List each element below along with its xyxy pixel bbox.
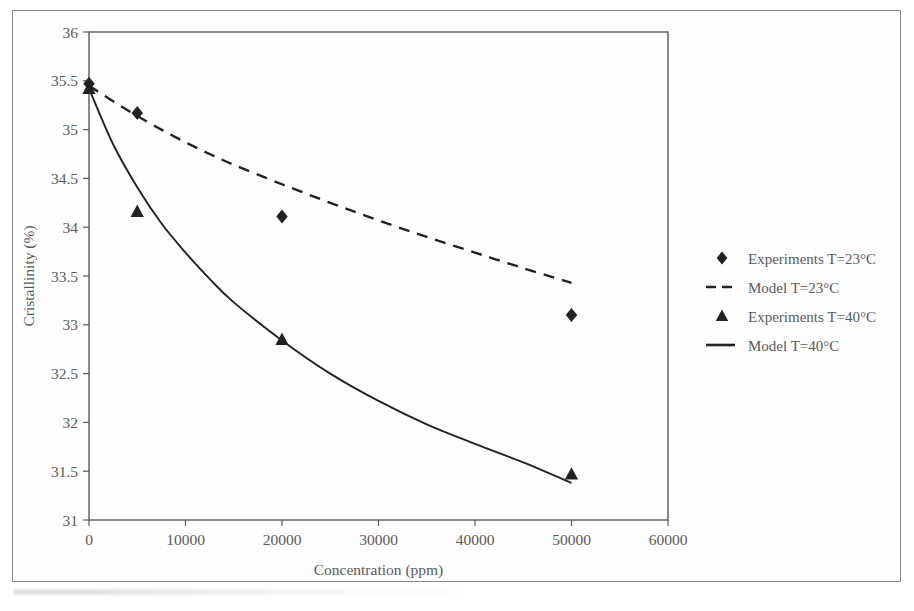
y-tick-label: 33: [63, 316, 79, 333]
y-axis-title: Cristallinity (%): [20, 225, 38, 326]
x-tick-label: 10000: [166, 531, 205, 548]
data-point-diamond: [566, 308, 577, 322]
x-tick-label: 60000: [649, 531, 688, 548]
data-point-triangle: [131, 205, 144, 217]
x-axis-title: Concentration (ppm): [314, 561, 444, 579]
plot-area: 3131.53232.53333.53434.53535.53601000020…: [20, 24, 876, 580]
x-tick-label: 0: [85, 531, 93, 548]
y-tick-label: 34.5: [51, 170, 78, 187]
legend-label: Experiments T=23°C: [748, 251, 876, 267]
figure: 3131.53232.53333.53434.53535.53601000020…: [0, 0, 914, 611]
data-point-diamond: [276, 209, 287, 223]
x-tick-label: 20000: [263, 531, 302, 548]
y-tick-label: 31.5: [51, 463, 78, 480]
x-tick-label: 40000: [456, 531, 495, 548]
y-tick-label: 32: [63, 414, 79, 431]
y-tick-label: 33.5: [51, 268, 78, 285]
y-tick-label: 32.5: [51, 365, 78, 382]
legend-marker-triangle: [716, 310, 728, 322]
x-tick-label: 50000: [552, 531, 591, 548]
series-line-1: [89, 86, 572, 283]
series-line-3: [89, 89, 572, 483]
plot-frame: [89, 32, 668, 520]
y-tick-label: 35: [63, 121, 79, 138]
legend-label: Model T=40°C: [748, 338, 839, 354]
y-tick-label: 35.5: [51, 72, 78, 89]
legend-label: Experiments T=40°C: [748, 309, 876, 325]
x-tick-label: 30000: [359, 531, 398, 548]
legend-label: Model T=23°C: [748, 280, 839, 296]
crystallinity-vs-concentration-chart: 3131.53232.53333.53434.53535.53601000020…: [0, 0, 914, 611]
y-tick-label: 34: [63, 219, 79, 236]
y-tick-label: 36: [63, 24, 79, 41]
legend-marker-diamond: [717, 252, 728, 265]
data-point-triangle: [565, 467, 578, 479]
y-tick-label: 31: [63, 512, 79, 529]
